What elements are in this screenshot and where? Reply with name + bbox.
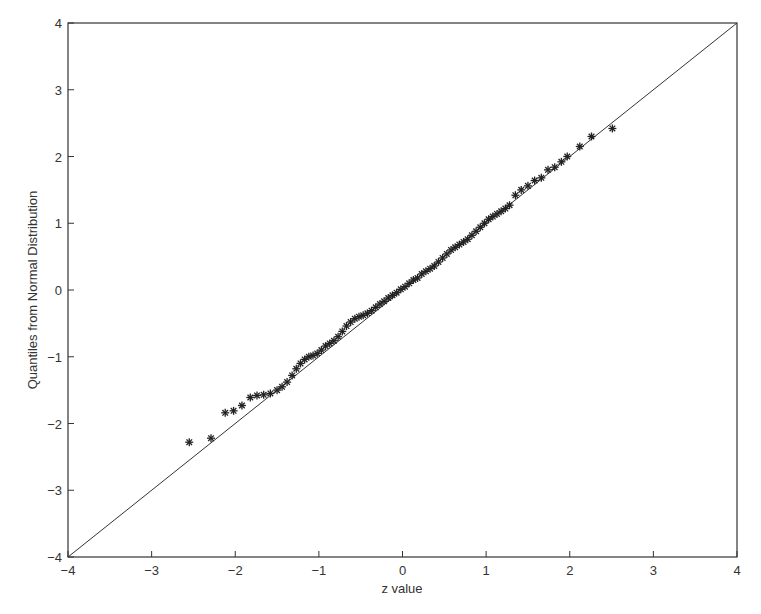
asterisk-marker [283, 378, 291, 386]
asterisk-marker [563, 153, 571, 161]
qq-plot: −4−3−2−101234 −4−3−2−101234 z value Quan… [0, 0, 761, 614]
asterisk-marker [207, 434, 215, 442]
y-tick-label: 0 [55, 283, 62, 298]
asterisk-marker [334, 333, 342, 341]
asterisk-marker [338, 327, 346, 335]
asterisk-marker [230, 407, 238, 415]
asterisk-marker [292, 365, 300, 373]
asterisk-marker [517, 186, 525, 194]
x-axis-label: z value [381, 581, 422, 596]
asterisk-marker [576, 142, 584, 150]
x-tick-label: −4 [61, 563, 76, 578]
x-tick-label: −2 [228, 563, 243, 578]
y-tick-label: −3 [47, 483, 62, 498]
asterisk-marker [221, 409, 229, 417]
x-tick-label: 0 [399, 563, 406, 578]
x-tick-label: 4 [733, 563, 740, 578]
asterisk-marker [537, 174, 545, 182]
y-tick-label: 4 [55, 16, 62, 31]
y-tick-label: −2 [47, 417, 62, 432]
y-tick-label: 2 [55, 150, 62, 165]
x-tick-label: 2 [566, 563, 573, 578]
y-tick-label: 3 [55, 83, 62, 98]
asterisk-marker [238, 401, 246, 409]
x-tick-label: 1 [483, 563, 490, 578]
y-axis-label: Quantiles from Normal Distribution [25, 191, 40, 390]
x-tick-label: −1 [311, 563, 326, 578]
asterisk-marker [288, 371, 296, 379]
x-tick-label: −3 [144, 563, 159, 578]
x-tick-label: 3 [650, 563, 657, 578]
asterisk-marker [260, 391, 268, 399]
y-tick-label: −1 [47, 350, 62, 365]
y-tick-label: −4 [47, 550, 62, 565]
y-tick-label: 1 [55, 216, 62, 231]
